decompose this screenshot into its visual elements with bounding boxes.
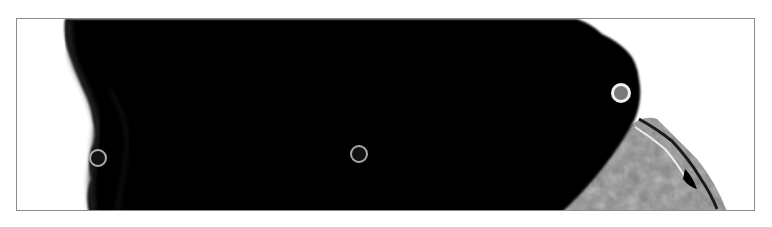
image-frame <box>16 18 755 211</box>
marker-ring-center[interactable] <box>350 145 368 163</box>
marker-ring-left[interactable] <box>89 149 107 167</box>
grayscale-photo <box>17 19 755 211</box>
marker-filled-right[interactable] <box>611 83 631 103</box>
